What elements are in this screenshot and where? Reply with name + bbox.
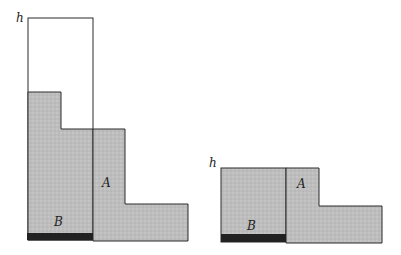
right-base-bar <box>221 234 286 242</box>
left-base-bar <box>27 233 93 240</box>
diagram-canvas: h A B h A B <box>0 0 401 255</box>
right-height-label: h <box>209 156 217 170</box>
left-panel: h A B <box>16 11 188 241</box>
left-region-a-label: A <box>101 176 111 190</box>
right-region-a-label: A <box>296 177 306 191</box>
right-panel: h A B <box>209 156 382 243</box>
right-region-b-label: B <box>246 219 256 233</box>
left-height-label: h <box>16 11 24 25</box>
left-region-b-label: B <box>53 215 63 229</box>
